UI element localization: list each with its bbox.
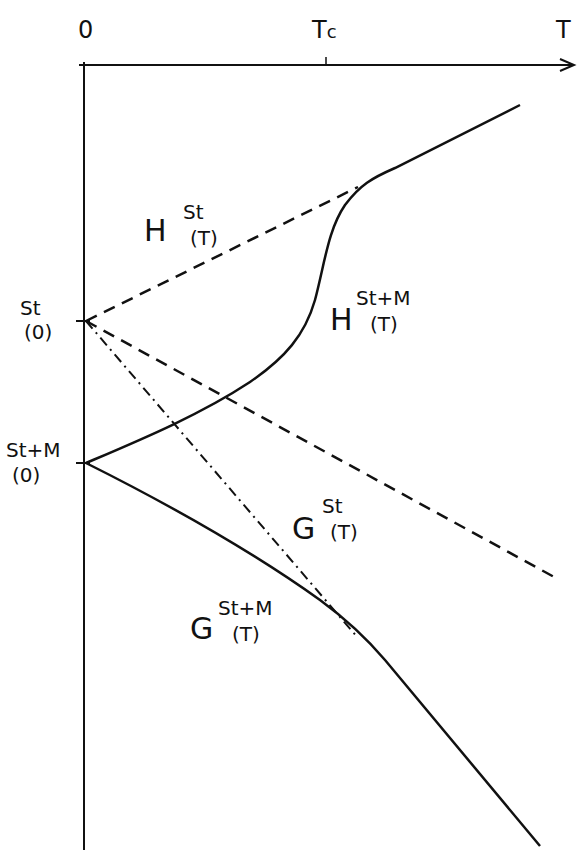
h-stm-label-sup: St+M [356, 288, 411, 308]
g-stm-label-sub: (T) [232, 624, 260, 644]
diagram-plot [0, 0, 584, 866]
thermodynamic-diagram: 0 Tc T St (0) St+M (0) H St (T) H St+M (… [0, 0, 584, 866]
x-axis-label: T [556, 18, 571, 42]
st0-label-bottom: (0) [24, 322, 52, 342]
g-st-label-main: G [292, 514, 315, 544]
h-st-label-sub: (T) [190, 228, 218, 248]
tangent-line [86, 321, 358, 638]
tc-label: Tc [312, 18, 337, 42]
g-st-curve [86, 321, 556, 578]
tc-label-sub: c [327, 21, 337, 42]
h-st-curve [86, 187, 358, 321]
origin-label: 0 [78, 18, 93, 42]
g-stm-label-sup: St+M [218, 598, 273, 618]
stm0-label-top: St+M [6, 440, 61, 460]
g-st-label-sup: St [322, 496, 343, 516]
g-stm-label-main: G [190, 614, 213, 644]
tc-label-main: T [312, 16, 327, 44]
h-stm-label-sub: (T) [370, 314, 398, 334]
h-st-label-sup: St [183, 202, 204, 222]
g-st-label-sub: (T) [330, 522, 358, 542]
h-stm-curve [86, 105, 520, 463]
stm0-label-bottom: (0) [12, 465, 40, 485]
st0-label-top: St [20, 298, 41, 318]
h-stm-label-main: H [330, 305, 353, 335]
h-st-label-main: H [144, 216, 167, 246]
